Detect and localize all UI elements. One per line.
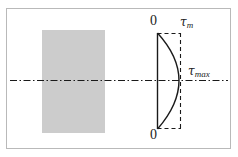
tau-symbol-m: τ: [180, 15, 187, 29]
tau-max-subscript: max: [195, 69, 210, 79]
shear-stress-figure: 0 0 τm τmax: [0, 0, 238, 157]
tau-symbol-max: τ: [188, 64, 195, 78]
zero-label-bottom: 0: [150, 128, 157, 142]
tau-m-label: τm: [180, 16, 193, 30]
rectangular-cross-section: [42, 30, 105, 133]
tau-max-label: τmax: [188, 65, 210, 79]
zero-label-top: 0: [150, 14, 157, 28]
tau-m-subscript: m: [187, 20, 194, 30]
